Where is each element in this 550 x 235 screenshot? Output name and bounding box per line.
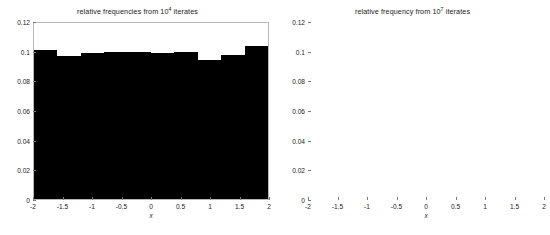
histogram-bar [57, 56, 69, 199]
x-tick-label: 2 [267, 203, 271, 210]
x-axis-label-left: x [149, 212, 152, 219]
y-tick-label: 0.06 [275, 108, 305, 115]
x-tick-mark [367, 197, 368, 200]
figure-canvas: relative frequencies from 104 iterates 0… [0, 0, 550, 235]
chart-panel-right: relative frequency from 107 iterates 00.… [275, 0, 550, 235]
y-tick-mark [308, 200, 311, 201]
histogram-bar [104, 52, 116, 199]
x-tick-mark [122, 197, 123, 200]
y-tick-mark [33, 81, 36, 82]
chart-title-right-prefix: relative frequency from 10 [355, 7, 441, 16]
y-tick-label: 0.08 [0, 78, 30, 85]
x-tick-mark [426, 197, 427, 200]
histogram-bar [46, 50, 58, 199]
x-tick-mark [456, 197, 457, 200]
plot-area-left [33, 22, 269, 200]
histogram-bar [34, 50, 46, 199]
x-tick-label: 0.5 [176, 203, 185, 210]
histogram-bar [69, 56, 81, 199]
y-tick-label: 0.1 [275, 48, 305, 55]
x-tick-label: -0.5 [116, 203, 127, 210]
x-tick-label: -2 [30, 203, 36, 210]
histogram-bar [186, 52, 198, 199]
y-tick-label: 0 [0, 197, 30, 204]
x-tick-mark [92, 197, 93, 200]
y-tick-label: 0.1 [0, 48, 30, 55]
x-tick-mark [240, 197, 241, 200]
x-tick-mark [33, 197, 34, 200]
x-tick-label: 1 [483, 203, 487, 210]
histogram-bar [210, 60, 222, 199]
y-tick-label: 0.02 [275, 167, 305, 174]
y-tick-label: 0.12 [275, 19, 305, 26]
y-tick-mark [33, 52, 36, 53]
chart-title-left: relative frequencies from 104 iterates [0, 7, 275, 16]
y-tick-label: 0.04 [275, 137, 305, 144]
histogram-bar [81, 53, 93, 199]
histogram-bar [174, 52, 186, 199]
x-tick-mark [338, 197, 339, 200]
y-tick-mark [308, 111, 311, 112]
x-tick-label: -0.5 [391, 203, 402, 210]
y-tick-label: 0.04 [0, 137, 30, 144]
histogram-bar [245, 46, 257, 199]
histogram-bars-left [34, 23, 268, 199]
chart-panel-left: relative frequencies from 104 iterates 0… [0, 0, 275, 235]
x-tick-label: 1.5 [235, 203, 244, 210]
chart-title-left-prefix: relative frequencies from 10 [77, 7, 169, 16]
x-tick-mark [397, 197, 398, 200]
histogram-bar [116, 52, 128, 199]
x-tick-label: 1.5 [510, 203, 519, 210]
x-tick-mark [63, 197, 64, 200]
x-tick-label: -1 [89, 203, 95, 210]
y-tick-label: 0.06 [0, 108, 30, 115]
histogram-bar [128, 52, 140, 199]
x-tick-mark [544, 197, 545, 200]
x-tick-mark [151, 197, 152, 200]
histogram-bar [93, 53, 105, 199]
y-tick-label: 0.08 [275, 78, 305, 85]
x-tick-mark [181, 197, 182, 200]
chart-title-left-suffix: iterates [172, 7, 198, 16]
y-tick-mark [308, 141, 311, 142]
chart-title-right-suffix: iterates [444, 7, 470, 16]
x-tick-label: -1.5 [57, 203, 68, 210]
x-tick-label: 0 [424, 203, 428, 210]
y-tick-label: 0.12 [0, 19, 30, 26]
histogram-bar [139, 52, 151, 199]
x-axis-label-right: x [424, 212, 427, 219]
x-tick-mark [515, 197, 516, 200]
histogram-bar [256, 46, 268, 199]
y-tick-mark [33, 22, 36, 23]
y-tick-mark [33, 170, 36, 171]
y-tick-label: 0.02 [0, 167, 30, 174]
x-tick-label: 0 [149, 203, 153, 210]
histogram-bar [233, 55, 245, 199]
y-tick-mark [308, 52, 311, 53]
x-tick-label: 0.5 [451, 203, 460, 210]
x-tick-mark [210, 197, 211, 200]
x-tick-label: 2 [542, 203, 546, 210]
y-tick-mark [308, 170, 311, 171]
y-tick-mark [33, 141, 36, 142]
histogram-bar [151, 53, 163, 199]
y-tick-mark [308, 22, 311, 23]
x-tick-label: -1 [364, 203, 370, 210]
histogram-bar [198, 60, 210, 199]
histogram-bar [163, 53, 175, 199]
y-tick-mark [33, 200, 36, 201]
x-tick-mark [269, 197, 270, 200]
x-tick-mark [485, 197, 486, 200]
y-tick-mark [33, 111, 36, 112]
chart-title-right: relative frequency from 107 iterates [275, 7, 550, 16]
x-tick-mark [308, 197, 309, 200]
x-tick-label: -1.5 [332, 203, 343, 210]
y-tick-label: 0 [275, 197, 305, 204]
x-tick-label: -2 [305, 203, 311, 210]
y-tick-mark [308, 81, 311, 82]
histogram-bar [221, 55, 233, 199]
x-tick-label: 1 [208, 203, 212, 210]
